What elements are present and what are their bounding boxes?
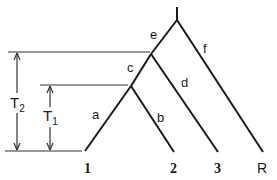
branch-f xyxy=(177,20,263,152)
leaf-label-3: 3 xyxy=(214,161,221,176)
branch-label-c: c xyxy=(127,60,134,75)
leaf-label-R: R xyxy=(257,160,267,176)
branch-label-d: d xyxy=(181,75,188,90)
branch-c xyxy=(131,54,151,86)
branch-label-a: a xyxy=(92,107,100,122)
leaf-label-2: 2 xyxy=(170,161,177,176)
branch-label-e: e xyxy=(150,27,157,42)
phylogenetic-tree-diagram: T2 T1 a b c d e f 1 2 3 R xyxy=(0,0,277,180)
branch-b xyxy=(131,86,174,152)
leaf-label-1: 1 xyxy=(84,161,91,176)
branch-label-b: b xyxy=(157,110,164,125)
branch-label-f: f xyxy=(203,41,207,56)
